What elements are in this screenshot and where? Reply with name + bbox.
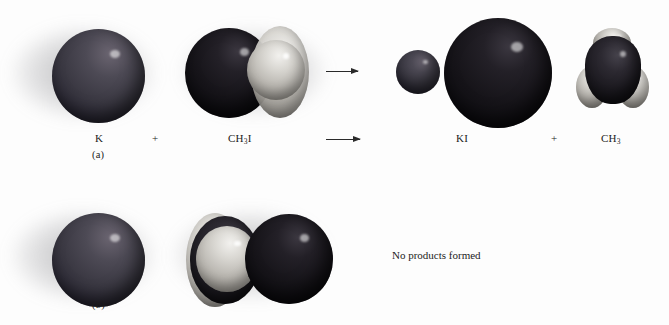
potassium-ion-product <box>396 50 440 94</box>
iodine-atom-b <box>245 214 333 304</box>
label-reactant-k: K <box>95 133 103 144</box>
reaction-arrow-equation-a <box>326 139 360 140</box>
ch3i-suffix: I <box>248 132 252 144</box>
ch3i-prefix: CH <box>228 132 244 144</box>
label-product-ch3: CH3 <box>601 133 621 146</box>
label-plus-1: + <box>152 133 158 144</box>
methyl-group-a <box>247 40 305 100</box>
ch3-subscript: 3 <box>617 137 621 146</box>
iodide-ion-product <box>444 18 552 128</box>
potassium-atom-b <box>52 213 145 307</box>
label-reactant-ch3i: CH3I <box>228 133 252 146</box>
label-product-ki: KI <box>456 133 468 144</box>
carbon-atom-radical <box>585 36 641 104</box>
ch3-prefix: CH <box>601 132 617 144</box>
panel-b-tag: (b) <box>92 300 105 311</box>
reaction-arrow-molecules-a <box>326 71 358 72</box>
potassium-atom-a <box>52 29 145 123</box>
no-products-text: No products formed <box>392 249 481 261</box>
label-plus-2: + <box>551 133 557 144</box>
panel-a-tag: (a) <box>92 150 104 161</box>
reaction-figure: K + CH3I KI + CH3 (a) No products formed… <box>0 0 669 325</box>
